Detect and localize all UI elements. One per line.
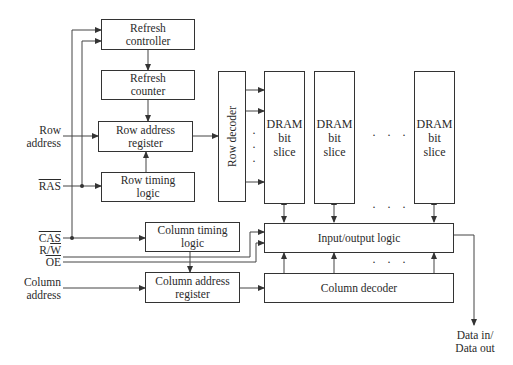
refresh-counter-block: Refresh counter <box>101 70 195 100</box>
refresh-controller-line1: Refresh <box>130 22 166 35</box>
column-decoder-block: Column decoder <box>264 273 454 303</box>
oe-text: OE <box>46 256 61 268</box>
dram-block-diagram: Refresh controller Refresh counter Row a… <box>0 0 513 365</box>
vdot-3: · <box>252 154 256 168</box>
slice-1-line3: slice <box>274 145 296 159</box>
row-lines-ellipsis: · · · <box>252 126 256 168</box>
refresh-counter-line2: counter <box>131 85 165 98</box>
column-address-line1: Column <box>10 276 61 289</box>
column-decoder-label: Column decoder <box>321 282 397 295</box>
io-logic-label: Input/output logic <box>318 232 401 245</box>
column-timing-logic-line1: Column timing <box>158 224 228 237</box>
slices-ellipsis: · · · <box>372 128 410 143</box>
data-in-out-label: Data in/ Data out <box>446 329 504 355</box>
column-address-label: Column address <box>10 276 61 302</box>
cas-text: CAS <box>39 232 61 244</box>
row-decoder-label: Row decoder <box>226 106 239 167</box>
ras-text: RAS <box>39 180 61 192</box>
vdot-1: · <box>252 126 256 140</box>
slice-1-line1: DRAM <box>266 117 302 131</box>
row-decoder-block: Row decoder <box>218 71 246 202</box>
slice-2-line3: slice <box>324 145 346 159</box>
rw-w-text: W <box>50 244 61 256</box>
dram-bit-slice-1: DRAM bit slice <box>264 71 305 204</box>
row-address-line1: Row <box>10 124 61 137</box>
slice-arrows-ellipsis: · · · <box>372 200 410 215</box>
refresh-controller-line2: controller <box>126 35 171 48</box>
vdot-2: · <box>252 140 256 154</box>
row-address-line2: address <box>10 137 61 150</box>
slice-2-line1: DRAM <box>316 117 352 131</box>
row-address-label: Row address <box>10 124 61 150</box>
dram-bit-slice-2: DRAM bit slice <box>314 71 355 204</box>
ras-label: RAS <box>10 180 61 193</box>
row-address-register-line1: Row address <box>116 124 175 137</box>
row-timing-logic-block: Row timing logic <box>101 172 195 202</box>
column-timing-logic-block: Column timing logic <box>145 222 240 252</box>
data-out-text: Data out <box>446 342 504 355</box>
refresh-counter-line1: Refresh <box>130 72 166 85</box>
rw-r-text: R/ <box>39 244 50 256</box>
column-address-register-line2: register <box>175 288 209 301</box>
decoder-arrows-ellipsis: · · · <box>372 255 410 270</box>
row-timing-logic-line1: Row timing <box>121 174 176 187</box>
slice-1-line2: bit <box>278 131 291 145</box>
column-address-register-block: Column address register <box>145 272 240 303</box>
io-logic-block: Input/output logic <box>264 223 454 253</box>
column-address-line2: address <box>10 289 61 302</box>
slice-n-line2: bit <box>428 131 441 145</box>
dram-bit-slice-n: DRAM bit slice <box>414 71 455 204</box>
refresh-controller-block: Refresh controller <box>101 19 195 50</box>
row-address-register-block: Row address register <box>98 121 193 152</box>
data-in-text: Data in/ <box>446 329 504 342</box>
column-timing-logic-line2: logic <box>181 237 204 250</box>
slice-2-line2: bit <box>328 131 341 145</box>
slice-n-line3: slice <box>424 145 446 159</box>
slice-n-line1: DRAM <box>416 117 452 131</box>
column-address-register-line1: Column address <box>155 275 229 288</box>
oe-label: OE <box>10 256 61 269</box>
row-address-register-line2: register <box>128 137 162 150</box>
row-timing-logic-line2: logic <box>137 187 160 200</box>
